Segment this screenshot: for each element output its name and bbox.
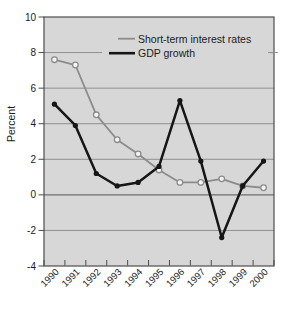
data-point-gdp-growth-1993 [115, 183, 120, 188]
data-point-short-term-interest-rates-1990 [52, 57, 58, 63]
data-point-short-term-interest-rates-1992 [93, 112, 99, 118]
x-tick-label-1990: 1990 [38, 266, 61, 289]
chart-svg: Short-term interest rates GDP growth 108… [0, 0, 294, 312]
data-point-gdp-growth-1998 [219, 235, 224, 240]
line-chart-figure: Short-term interest rates GDP growth 108… [0, 0, 294, 312]
y-tick-label--2: -2 [27, 225, 36, 236]
x-tick-label-1999: 1999 [226, 266, 249, 289]
x-tick-label-1997: 1997 [185, 266, 208, 289]
data-point-short-term-interest-rates-1993 [114, 137, 120, 143]
y-tick-label-4: 4 [30, 118, 36, 129]
x-tick-label-1993: 1993 [101, 266, 124, 289]
data-point-short-term-interest-rates-1994 [135, 151, 141, 157]
data-point-gdp-growth-1991 [73, 123, 78, 128]
data-point-gdp-growth-1994 [135, 180, 140, 185]
legend: Short-term interest rates GDP growth [102, 29, 270, 62]
x-tick-label-2000: 2000 [247, 266, 270, 289]
x-tick-label-1992: 1992 [80, 266, 103, 289]
y-tick-label-0: 0 [30, 189, 36, 200]
data-point-gdp-growth-1997 [198, 158, 203, 163]
data-point-short-term-interest-rates-2000 [261, 185, 267, 191]
y-tick-label-2: 2 [30, 154, 36, 165]
y-tick-label-8: 8 [30, 47, 36, 58]
y-tick-label--4: -4 [27, 261, 36, 272]
legend-label-interest-rates: Short-term interest rates [138, 33, 251, 45]
data-point-gdp-growth-2000 [261, 158, 266, 163]
data-point-short-term-interest-rates-1998 [219, 176, 225, 182]
data-point-gdp-growth-1995 [156, 164, 161, 169]
y-tick-label-10: 10 [25, 12, 37, 23]
data-point-gdp-growth-1990 [52, 102, 57, 107]
y-axis-title: Percent [5, 106, 17, 142]
x-tick-label-1994: 1994 [122, 266, 145, 289]
data-point-gdp-growth-1992 [94, 171, 99, 176]
x-tick-label-1991: 1991 [59, 266, 82, 289]
x-tick-label-1996: 1996 [164, 266, 187, 289]
x-tick-label-1995: 1995 [143, 266, 166, 289]
y-tick-label-6: 6 [30, 83, 36, 94]
legend-label-gdp-growth: GDP growth [138, 47, 195, 59]
data-point-short-term-interest-rates-1997 [198, 180, 204, 186]
data-point-gdp-growth-1996 [177, 98, 182, 103]
x-tick-label-1998: 1998 [205, 266, 228, 289]
data-point-gdp-growth-1999 [240, 183, 245, 188]
data-point-short-term-interest-rates-1991 [73, 62, 79, 68]
data-point-short-term-interest-rates-1996 [177, 180, 183, 186]
